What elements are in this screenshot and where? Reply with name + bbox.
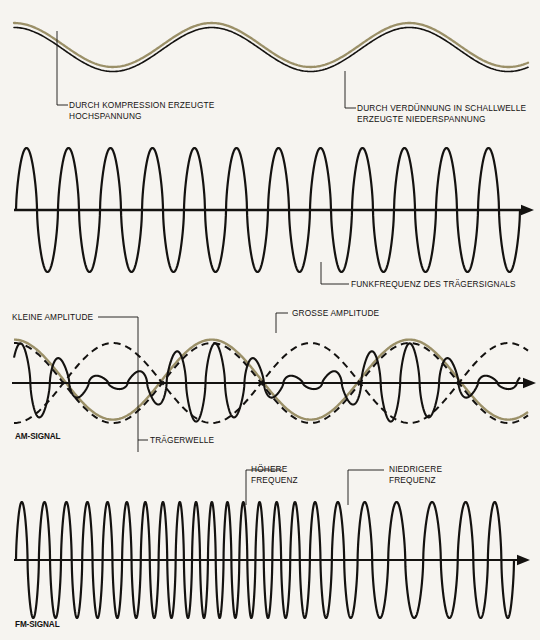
label-fm-signal: FM-SIGNAL: [15, 620, 60, 631]
leader-large-amplitude: [276, 313, 288, 333]
sound-wave-line-black: [14, 28, 528, 72]
label-large-amplitude: GROSSE AMPLITUDE: [292, 308, 379, 319]
label-compression-highvoltage: DURCH KOMPRESSION ERZEUGTE HOCHSPANNUNG: [69, 100, 214, 121]
sound-wave-envelope-tan: [14, 23, 528, 67]
am-axis-arrowhead: [523, 378, 536, 388]
carrier-axis-arrowhead: [521, 205, 534, 215]
leader-lower-frequency: [348, 470, 384, 505]
label-carrier-wave: TRÄGERWELLE: [150, 435, 214, 446]
label-small-amplitude: KLEINE AMPLITUDE: [12, 312, 93, 323]
label-am-signal: AM-SIGNAL: [15, 432, 61, 443]
leader-rarefaction: [345, 71, 356, 108]
fm-axis-arrowhead: [517, 555, 530, 565]
label-rarefaction-lowvoltage: DURCH VERDÜNNUNG IN SCHALLWELLE ERZEUGTE…: [357, 103, 526, 124]
leader-small-amplitude: [98, 317, 138, 452]
figure-am-fm-modulation: DURCH KOMPRESSION ERZEUGTE HOCHSPANNUNG …: [0, 0, 540, 640]
label-carrier-radio-frequency: FUNKFREQUENZ DES TRÄGERSIGNALS: [351, 279, 516, 290]
label-lower-frequency: NIEDRIGERE FREQUENZ: [389, 464, 442, 485]
label-higher-frequency: HÖHERE FREQUENZ: [251, 464, 298, 485]
